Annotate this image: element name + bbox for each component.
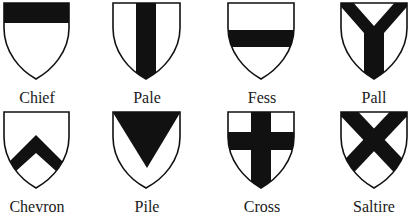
shield-saltire: Saltire bbox=[339, 108, 412, 216]
shield-cross: Cross bbox=[225, 108, 325, 216]
shield-pall: Pall bbox=[339, 0, 412, 108]
shield-chief: Chief bbox=[0, 0, 100, 108]
shield-fess: Fess bbox=[225, 0, 325, 108]
shield-label: Chief bbox=[0, 90, 74, 106]
shield-label: Pall bbox=[339, 90, 409, 106]
shield-pile: Pile bbox=[110, 108, 210, 216]
shield-label: Fess bbox=[225, 90, 299, 106]
shield-label: Pale bbox=[110, 90, 184, 106]
shield-chevron: Chevron bbox=[0, 108, 100, 216]
shield-label: Pile bbox=[110, 199, 184, 215]
shield-label: Saltire bbox=[339, 199, 409, 215]
shield-label: Chevron bbox=[0, 199, 74, 215]
shield-pale: Pale bbox=[110, 0, 210, 108]
shield-label: Cross bbox=[225, 199, 299, 215]
